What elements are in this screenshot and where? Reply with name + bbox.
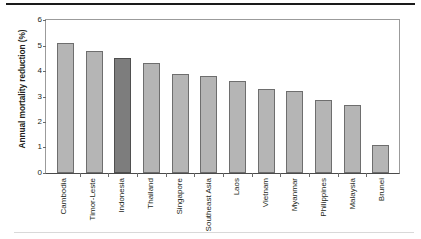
y-tick-label-3: 3 bbox=[38, 93, 42, 101]
bar-myanmar bbox=[286, 91, 303, 173]
y-tick-label-6: 6 bbox=[38, 16, 42, 24]
bar-slot bbox=[309, 20, 338, 173]
bar-singapore bbox=[172, 74, 189, 173]
bar-slot bbox=[223, 20, 252, 173]
x-label-slot: Philippines bbox=[309, 176, 338, 232]
x-axis-label-singapore: Singapore bbox=[175, 178, 184, 214]
x-axis-label-laos: Laos bbox=[233, 178, 242, 195]
x-axis-label-cambodia: Cambodia bbox=[60, 178, 69, 214]
bar-southeast-asia bbox=[200, 76, 217, 173]
x-label-slot: Indonesia bbox=[108, 176, 137, 232]
x-axis-label-vietnam: Vietnam bbox=[262, 178, 271, 207]
y-tick-label-1: 1 bbox=[38, 143, 42, 151]
x-axis-label-philippines: Philippines bbox=[320, 178, 329, 217]
x-axis-label-timor-leste: Timor-Leste bbox=[89, 178, 98, 220]
y-axis-title: Annual mortality reduction (%) bbox=[17, 5, 27, 173]
bar-brunei bbox=[372, 145, 389, 173]
bar-slot bbox=[51, 20, 80, 173]
bar-slot bbox=[108, 20, 137, 173]
x-axis-label-malaysia: Malaysia bbox=[348, 178, 357, 210]
bottom-divider-rule bbox=[14, 232, 414, 233]
bar-slot bbox=[137, 20, 166, 173]
bar-thailand bbox=[143, 63, 160, 173]
x-label-slot: Malaysia bbox=[338, 176, 367, 232]
x-axis-label-southeast-asia: Southeast Asia bbox=[204, 178, 213, 232]
bar-slot bbox=[366, 20, 395, 173]
x-label-slot: Southeast Asia bbox=[194, 176, 223, 232]
bar-timor-leste bbox=[86, 51, 103, 173]
x-axis-label-indonesia: Indonesia bbox=[118, 178, 127, 213]
y-tick-mark-0 bbox=[43, 173, 46, 174]
bar-philippines bbox=[315, 100, 332, 173]
x-axis-label-thailand: Thailand bbox=[147, 178, 156, 209]
bar-malaysia bbox=[344, 105, 361, 173]
y-tick-label-2: 2 bbox=[38, 118, 42, 126]
bar-slot bbox=[166, 20, 195, 173]
y-tick-label-5: 5 bbox=[38, 42, 42, 50]
x-axis-label-brunei: Brunei bbox=[377, 178, 386, 201]
x-label-slot: Vietnam bbox=[252, 176, 281, 232]
x-label-slot: Laos bbox=[223, 176, 252, 232]
y-tick-label-4: 4 bbox=[38, 67, 42, 75]
figure: Annual mortality reduction (%) 0 1 2 3 4… bbox=[0, 0, 421, 239]
bar-indonesia bbox=[114, 58, 131, 173]
plot-area: 0 1 2 3 4 5 6 bbox=[45, 19, 400, 174]
x-axis-category-labels: CambodiaTimor-LesteIndonesiaThailandSing… bbox=[45, 176, 400, 232]
x-label-slot: Cambodia bbox=[50, 176, 79, 232]
y-tick-label-0: 0 bbox=[38, 169, 42, 177]
x-label-slot: Timor-Leste bbox=[79, 176, 108, 232]
x-label-slot: Singapore bbox=[165, 176, 194, 232]
bar-slot bbox=[280, 20, 309, 173]
bar-slot bbox=[338, 20, 367, 173]
bar-series bbox=[46, 20, 399, 173]
top-divider-rule bbox=[6, 3, 415, 5]
x-axis-label-myanmar: Myanmar bbox=[291, 178, 300, 211]
bar-slot bbox=[80, 20, 109, 173]
bar-laos bbox=[229, 81, 246, 173]
x-label-slot: Myanmar bbox=[281, 176, 310, 232]
bar-cambodia bbox=[57, 43, 74, 173]
x-label-slot: Thailand bbox=[136, 176, 165, 232]
bar-vietnam bbox=[258, 89, 275, 173]
bar-slot bbox=[194, 20, 223, 173]
bar-slot bbox=[252, 20, 281, 173]
x-label-slot: Brunei bbox=[367, 176, 396, 232]
